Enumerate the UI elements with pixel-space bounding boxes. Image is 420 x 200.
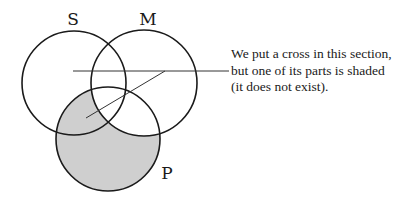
shaded-region bbox=[0, 0, 420, 200]
annotation-line-1: We put a cross in this section, bbox=[231, 46, 420, 63]
annotation-line-2: but one of its parts is shaded bbox=[231, 63, 420, 80]
label-s: S bbox=[67, 9, 79, 29]
label-p: P bbox=[161, 163, 172, 183]
annotation-line-3: (it does not exist). bbox=[231, 79, 420, 96]
label-m: M bbox=[139, 9, 156, 29]
annotation-text: We put a cross in this section, but one … bbox=[231, 46, 420, 96]
venn-diagram: S M P bbox=[0, 0, 420, 200]
